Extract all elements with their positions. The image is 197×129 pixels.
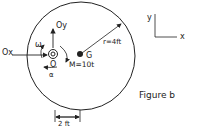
free-body-diagram: Ox Oy ω O α G M=10t r=4ft 2 ft y x Figur… (0, 0, 197, 129)
oy-label: Oy (56, 21, 67, 30)
x-axis-label: x (180, 32, 185, 41)
figure-caption: Figure b (139, 90, 175, 100)
pivot-o (49, 50, 58, 59)
radius-label: r=4ft (103, 38, 122, 46)
omega-label: ω (35, 40, 42, 49)
pivot-label: O (50, 60, 56, 69)
y-axis-label: y (147, 13, 152, 22)
g-label: G (86, 51, 92, 60)
moment-label: M=10t (69, 60, 94, 69)
dimension-label: 2 ft (58, 120, 70, 128)
alpha-label: α (49, 71, 54, 79)
ox-label: Ox (2, 48, 13, 57)
coordinate-axes (155, 14, 177, 37)
alpha-arrow-right (60, 46, 67, 62)
center-of-mass-g (77, 51, 83, 57)
